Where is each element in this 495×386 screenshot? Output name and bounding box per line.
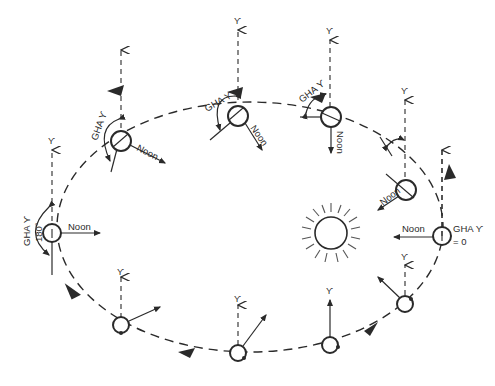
gha-zero-value: = 0 [453,236,466,247]
gha-180-label: 180° [33,222,44,242]
earth-position-upper-left: GHA ϒ Noon [89,50,165,172]
aries-symbol: ϒ [326,286,333,296]
gha-label: GHA ϒ [89,109,110,142]
aries-symbol: ϒ [401,252,408,262]
gha-label: GHA ϒ [21,215,32,246]
sun-icon [302,203,360,262]
earth-position-top-center: ϒ GHA ϒ Noon [203,16,271,150]
aries-symbol: ϒ [401,86,408,96]
earth-position-lower-left: ϒ [113,267,160,335]
earth-position-upper-right: ϒ Noon [377,86,416,210]
noon-label: Noon [402,223,425,234]
aries-symbol: ϒ [48,136,55,146]
noon-label: Noon [248,123,270,148]
aries-symbol: ϒ [234,16,241,26]
gha-label: GHA ϒ [453,223,484,234]
noon-label: Noon [335,131,346,154]
earth-position-lower-right: ϒ [378,252,413,312]
noon-label: Noon [135,142,160,162]
earth-position-top-right: ϒ GHA ϒ Noon [296,26,346,154]
aries-symbol: ϒ [117,267,124,277]
earth-position-bottom-right: ϒ [322,286,340,353]
earth-position-bottom-left: ϒ [230,294,266,361]
earth-orbit-gha-diagram: Noon GHA ϒ = 0 ϒ Noon ϒ GHA ϒ Noon ϒ [0,0,495,386]
aries-symbol: ϒ [234,294,241,304]
aries-symbol: ϒ [326,26,333,36]
noon-label: Noon [68,221,91,232]
